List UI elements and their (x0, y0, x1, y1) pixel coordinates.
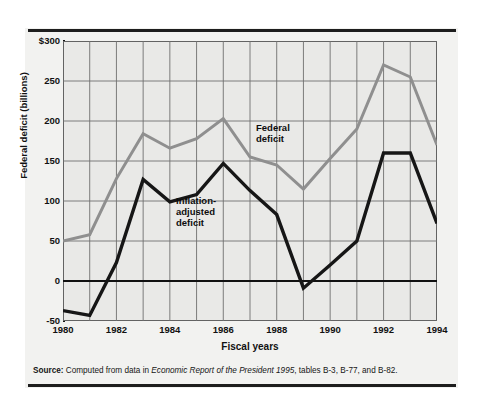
top-rule (28, 29, 456, 32)
x-tick-label: 1988 (266, 325, 287, 335)
inflation-adjusted-deficit-annotation: Inflation- adjusted deficit (176, 196, 216, 229)
x-tick-label: 1986 (213, 325, 234, 335)
x-tick-label: 1980 (52, 325, 73, 335)
source-publication: Economic Report of the President 1995 (151, 366, 294, 375)
y-tick-label: 50 (20, 236, 60, 246)
source-text-after: , tables B-3, B-77, and B-82. (294, 366, 397, 375)
x-axis-title: Fiscal years (63, 341, 437, 352)
federal-deficit-annotation: Federal deficit (256, 123, 290, 145)
x-axis-tick-labels: 19801982198419861988199019921994 (63, 325, 437, 339)
y-axis-title: Federal deficit (billions) (18, 56, 29, 196)
y-tick-label: $300 (20, 36, 60, 46)
x-tick-label: 1982 (106, 325, 127, 335)
y-tick-label: 100 (20, 196, 60, 206)
x-tick-label: 1984 (159, 325, 180, 335)
source-prefix: Source: (33, 366, 63, 375)
y-tick-label: 0 (20, 276, 60, 286)
source-text-before: Computed from data in (63, 366, 151, 375)
x-tick-label: 1990 (320, 325, 341, 335)
figure-root: $300250200150100500-50 Federal deficit (… (0, 0, 483, 408)
source-note: Source: Computed from data in Economic R… (33, 366, 453, 377)
x-tick-label: 1994 (426, 325, 447, 335)
x-tick-label: 1992 (373, 325, 394, 335)
plot-area: Federal deficit Inflation- adjusted defi… (63, 41, 437, 321)
bottom-rule (28, 384, 456, 387)
data-series-lines (63, 41, 437, 321)
